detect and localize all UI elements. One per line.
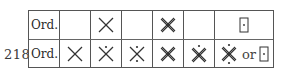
or-connector: or: [242, 47, 256, 62]
symbol-table: Ord. Ord.: [28, 10, 274, 68]
symbol-cell: [215, 11, 273, 39]
row-label: Ord.: [29, 11, 60, 39]
symbol-cell: [184, 40, 215, 68]
boxed-dot-icon: [259, 46, 269, 62]
single-cross-icon: [96, 15, 116, 35]
double-cross-dots-top-bottom-icon: [219, 43, 239, 65]
empty-cell: [184, 11, 215, 39]
boxed-dot-icon: [239, 17, 249, 33]
empty-cell: [60, 11, 91, 39]
symbol-cell: [122, 40, 153, 68]
symbol-cell: [91, 11, 122, 39]
table-row: Ord.: [29, 40, 273, 68]
single-cross-dot-top-icon: [96, 44, 116, 64]
double-cross-icon: [158, 15, 178, 35]
table-row: Ord.: [29, 11, 273, 39]
single-cross-icon: [65, 44, 85, 64]
page-number: 218: [4, 47, 30, 62]
double-cross-icon: [158, 44, 178, 64]
symbol-cell: or: [215, 40, 273, 68]
double-cross-dot-top-icon: [189, 44, 209, 64]
symbol-cell: [60, 40, 91, 68]
empty-cell: [122, 11, 153, 39]
row-label: Ord.: [29, 40, 60, 68]
single-cross-dots-top-bottom-icon: [127, 44, 147, 64]
symbol-cell: [153, 11, 184, 39]
symbol-cell: [91, 40, 122, 68]
symbol-cell: [153, 40, 184, 68]
